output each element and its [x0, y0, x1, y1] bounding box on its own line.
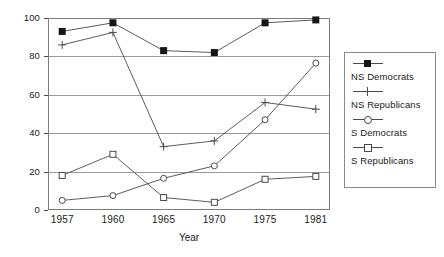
legend-entry-s-democrats[interactable]: S Democrats	[351, 113, 429, 139]
gridline	[49, 133, 329, 134]
legend-entry-ns-democrats[interactable]: NS Democrats	[351, 57, 429, 83]
y-axis-tick-label: 100	[6, 13, 40, 23]
filled-square-icon	[364, 60, 371, 67]
y-axis-tick-label: 40	[6, 128, 40, 138]
x-axis-tick-label: 1957	[40, 214, 84, 225]
y-axis-tick-label: 20	[6, 167, 40, 177]
legend-label: NS Democrats	[351, 70, 429, 83]
legend-label: S Republicans	[351, 154, 429, 167]
y-axis-tick-label: 0	[6, 205, 40, 215]
legend-marker-open-square-icon	[351, 141, 429, 154]
open-square-icon	[364, 144, 372, 152]
gridline	[49, 172, 329, 173]
gridline	[49, 56, 329, 57]
x-axis-title: Year	[48, 232, 330, 243]
legend-marker-open-circle-icon	[351, 113, 429, 126]
x-axis-tick-label: 1975	[243, 214, 287, 225]
x-axis-tick-label: 1981	[294, 214, 338, 225]
y-axis-tick-mark	[44, 172, 48, 173]
y-axis-tick-mark	[44, 56, 48, 57]
x-axis-tick-label: 1970	[192, 214, 236, 225]
x-axis-tick-label: 1965	[142, 214, 186, 225]
y-axis-tick-mark	[44, 133, 48, 134]
gridline	[49, 95, 329, 96]
plus-icon	[363, 87, 372, 96]
legend-entry-s-republicans[interactable]: S Republicans	[351, 141, 429, 167]
x-axis-tick-label: 1960	[91, 214, 135, 225]
y-axis-tick-mark	[44, 95, 48, 96]
plot-area	[48, 18, 330, 210]
legend-marker-plus-icon	[351, 85, 429, 98]
legend-entry-ns-republicans[interactable]: NS Republicans	[351, 85, 429, 111]
legend-label: NS Republicans	[351, 98, 429, 111]
chart-legend: NS DemocratsNS RepublicansS DemocratsS R…	[344, 52, 436, 188]
y-axis-tick-mark	[44, 18, 48, 19]
y-axis-tick-label: 60	[6, 90, 40, 100]
open-circle-icon	[364, 116, 372, 124]
y-axis-tick-mark	[44, 210, 48, 211]
y-axis-tick-label: 80	[6, 51, 40, 61]
line-chart-figure: 020406080100 (in percent) 19571960196519…	[0, 0, 444, 257]
legend-marker-filled-square-icon	[351, 57, 429, 70]
legend-label: S Democrats	[351, 126, 429, 139]
